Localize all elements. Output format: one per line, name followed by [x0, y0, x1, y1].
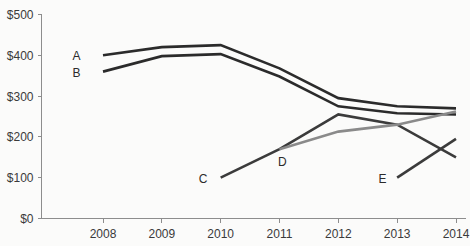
axis-group: [38, 15, 466, 223]
x-axis-tick-label: 2012: [325, 227, 352, 241]
x-axis-tick-label: 2009: [148, 227, 175, 241]
x-axis-tick-label: 2008: [90, 227, 117, 241]
x-axis-tick-label: 2013: [384, 227, 411, 241]
y-axis-tick-label: $0: [20, 212, 34, 226]
y-axis-tick-label: $500: [7, 8, 34, 22]
x-axis-tick-labels: 2008200920102011201220132014: [90, 227, 470, 241]
chart-canvas: $0$100$200$300$400$500 20082009201020112…: [0, 0, 470, 246]
y-axis-tick-labels: $0$100$200$300$400$500: [7, 8, 34, 226]
x-axis-tick-label: 2011: [267, 227, 293, 241]
y-axis-tick-label: $400: [7, 49, 34, 63]
x-axis-ticks: [103, 219, 456, 223]
y-axis-tick-label: $100: [7, 171, 34, 185]
series-label-d: D: [278, 155, 287, 169]
series-line-c: [221, 114, 456, 177]
x-axis-tick-label: 2014: [443, 227, 470, 241]
y-axis-tick-label: $200: [7, 130, 34, 144]
y-axis-tick-label: $300: [7, 90, 34, 104]
series-label-e: E: [378, 172, 386, 186]
series-line-e: [397, 139, 456, 178]
line-chart: $0$100$200$300$400$500 20082009201020112…: [0, 0, 470, 246]
x-axis-tick-label: 2010: [207, 227, 234, 241]
series-label-a: A: [73, 49, 81, 63]
series-labels-group: ABCDE: [73, 49, 387, 186]
series-label-b: B: [73, 66, 81, 80]
series-label-c: C: [199, 172, 208, 186]
y-axis-ticks: [38, 15, 42, 219]
